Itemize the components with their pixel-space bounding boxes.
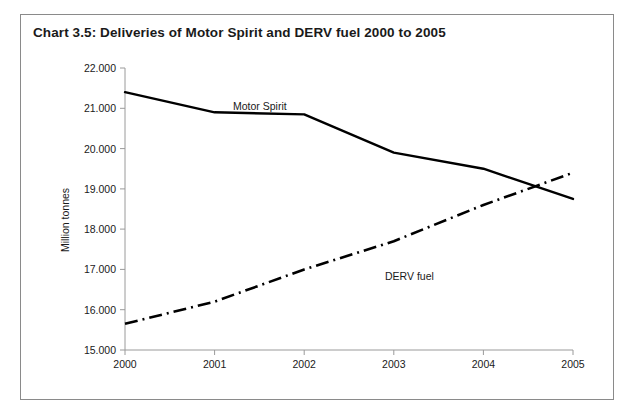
x-tick-label: 2000 — [113, 358, 137, 370]
series-line-motor-spirit — [125, 92, 573, 199]
y-axis-title: Million tonnes — [59, 188, 71, 252]
chart-plot-svg: 22.000 21.000 20.000 19.000 18.000 17.00… — [21, 15, 615, 401]
chart-container: Chart 3.5: Deliveries of Motor Spirit an… — [20, 14, 614, 400]
y-tick-label: 18.000 — [84, 223, 116, 235]
x-tick-label: 2005 — [561, 358, 585, 370]
y-tick-label: 21.000 — [84, 102, 116, 114]
y-tick-label: 16.000 — [84, 304, 116, 316]
series-label-motor-spirit: Motor Spirit — [233, 100, 287, 112]
y-tick-label: 19.000 — [84, 183, 116, 195]
x-tick-label: 2003 — [382, 358, 406, 370]
x-axis-ticks — [125, 350, 573, 355]
plot-area: 22.000 21.000 20.000 19.000 18.000 17.00… — [21, 15, 615, 401]
x-axis-tick-labels: 2000 2001 2002 2003 2004 2005 — [113, 358, 585, 370]
x-tick-label: 2002 — [293, 358, 317, 370]
y-axis-ticks — [120, 68, 125, 350]
series-line-derv-fuel — [125, 173, 573, 324]
y-tick-label: 20.000 — [84, 143, 116, 155]
y-tick-label: 17.000 — [84, 263, 116, 275]
y-tick-label: 15.000 — [84, 344, 116, 356]
y-axis-tick-labels: 22.000 21.000 20.000 19.000 18.000 17.00… — [84, 62, 116, 356]
x-tick-label: 2001 — [203, 358, 227, 370]
x-tick-label: 2004 — [472, 358, 496, 370]
y-tick-label: 22.000 — [84, 62, 116, 74]
series-label-derv-fuel: DERV fuel — [385, 270, 434, 282]
